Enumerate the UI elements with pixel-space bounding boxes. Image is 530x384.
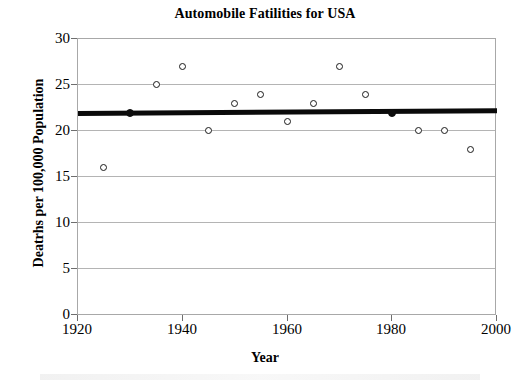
gridline-15 <box>78 176 495 177</box>
x-tick-label-2000: 2000 <box>466 322 526 337</box>
chart-title: Automobile Fatilities for USA <box>0 6 530 22</box>
data-point[interactable] <box>205 127 212 134</box>
x-tick-label-1940: 1940 <box>152 322 212 337</box>
gridline-25 <box>78 84 495 85</box>
gridline-10 <box>78 222 495 223</box>
data-point[interactable] <box>310 100 317 107</box>
data-point[interactable] <box>126 109 134 117</box>
trend-line <box>78 108 497 116</box>
x-tick-label-1920: 1920 <box>47 322 107 337</box>
data-point[interactable] <box>415 127 422 134</box>
x-tick-label-1980: 1980 <box>361 322 421 337</box>
gridline-5 <box>78 268 495 269</box>
data-point[interactable] <box>179 63 186 70</box>
data-point[interactable] <box>257 91 264 98</box>
y-tick-label-30: 30 <box>30 31 70 46</box>
data-point[interactable] <box>441 127 448 134</box>
data-point[interactable] <box>388 109 396 117</box>
plot-area <box>77 38 496 315</box>
data-point[interactable] <box>362 91 369 98</box>
data-point[interactable] <box>467 146 474 153</box>
gridline-20 <box>78 130 495 131</box>
y-tick-label-0: 0 <box>30 307 70 322</box>
y-axis-title: Deatrhs per 100,000 Population <box>31 48 47 298</box>
data-point[interactable] <box>336 63 343 70</box>
data-point[interactable] <box>284 118 291 125</box>
x-axis-title: Year <box>0 350 530 366</box>
automobile-fatalities-chart: Automobile Fatilities for USA 30 25 20 1… <box>0 0 530 384</box>
data-point[interactable] <box>153 81 160 88</box>
data-point[interactable] <box>231 100 238 107</box>
x-tick-label-1960: 1960 <box>257 322 317 337</box>
data-point[interactable] <box>100 164 107 171</box>
scan-artifact <box>40 374 480 380</box>
